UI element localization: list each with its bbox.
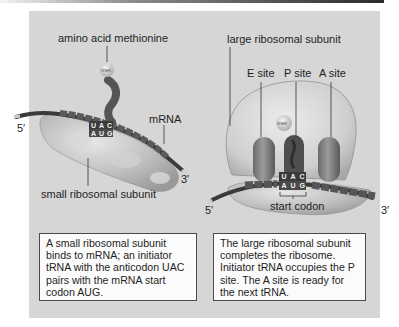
label-5prime-left: 5′	[17, 123, 25, 134]
label-3prime-left: 3′	[181, 174, 189, 185]
met-label-right: met	[277, 120, 287, 126]
svg-text:C: C	[300, 173, 305, 180]
caption-right: The large ribosomal subunit completes th…	[213, 233, 366, 301]
codon-blocks-left: UAC AUG	[89, 121, 113, 137]
label-mrna: mRNA	[149, 114, 181, 125]
svg-text:U: U	[282, 173, 287, 180]
e-site-pillar	[253, 137, 275, 182]
svg-text:U: U	[291, 182, 296, 189]
svg-text:A: A	[99, 122, 104, 129]
svg-text:G: G	[300, 182, 306, 189]
label-large-ribosomal-subunit: large ribosomal subunit	[227, 34, 341, 45]
svg-text:G: G	[107, 130, 113, 137]
initiator-trna-left: met	[100, 63, 116, 122]
label-3prime-right: 3′	[381, 205, 389, 216]
label-small-ribosomal-subunit: small ribosomal subunit	[41, 189, 156, 200]
svg-text:A: A	[291, 173, 296, 180]
svg-text:C: C	[107, 122, 112, 129]
label-5prime-right: 5′	[205, 205, 213, 216]
met-label-left: met	[101, 67, 111, 73]
label-start-codon: start codon	[270, 201, 324, 212]
label-e-site: E site	[247, 68, 275, 79]
svg-text:A: A	[282, 182, 287, 189]
svg-text:A: A	[91, 130, 96, 137]
svg-text:U: U	[91, 122, 96, 129]
a-site-pillar	[318, 137, 340, 182]
label-a-site: A site	[319, 68, 346, 79]
caption-left: A small ribosomal subunit binds to mRNA;…	[39, 233, 197, 301]
svg-text:U: U	[99, 130, 104, 137]
codon-blocks-right: UAC AUG	[279, 172, 306, 190]
label-amino-acid-methionine: amino acid methionine	[58, 33, 168, 44]
label-p-site: P site	[284, 68, 311, 79]
